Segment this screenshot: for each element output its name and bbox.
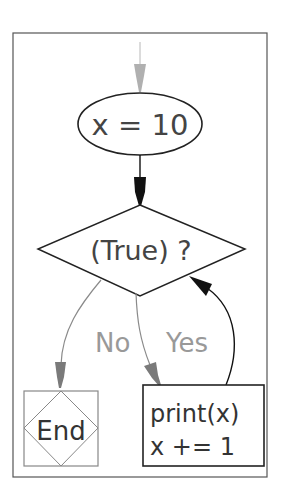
condition-label: (True) ? — [90, 235, 191, 266]
loop-body-node[interactable]: print(x) x += 1 — [143, 385, 264, 466]
body-line-1: print(x) — [150, 400, 239, 428]
no-edge-label: No — [95, 328, 130, 358]
assign-label: x = 10 — [92, 108, 189, 142]
body-line-2: x += 1 — [150, 433, 235, 461]
yes-edge-label: Yes — [165, 328, 208, 358]
end-label: End — [36, 416, 85, 446]
assign-node[interactable]: x = 10 — [78, 93, 202, 155]
end-node[interactable]: End — [24, 391, 98, 466]
flowchart-canvas: x = 10 (True) ? No Yes End print(x) x +=… — [0, 0, 285, 504]
